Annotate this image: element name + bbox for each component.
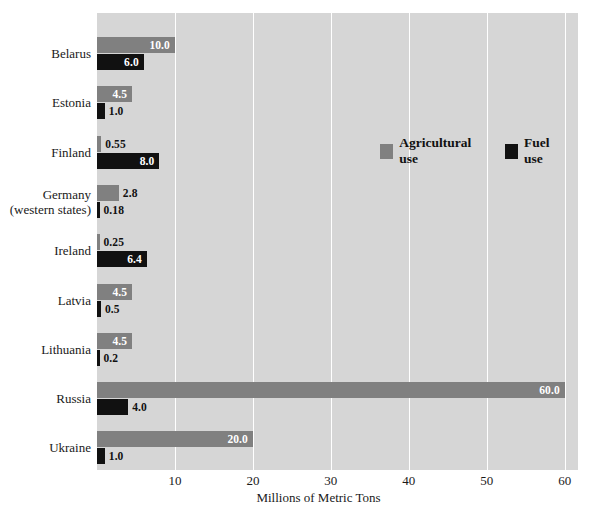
cut-off-title-remnant xyxy=(0,0,597,4)
legend: Agricultural useFuel use xyxy=(380,135,578,167)
bar-agricultural: 4.5 xyxy=(97,86,132,102)
bar-agricultural: 0.55 xyxy=(97,136,101,152)
bar-fuel: 6.4 xyxy=(97,251,147,267)
bar-agricultural: 2.8 xyxy=(97,185,119,201)
bar-group: 2.80.18 xyxy=(97,185,578,229)
bar-value-label: 4.0 xyxy=(132,401,147,413)
bar-fuel: 0.5 xyxy=(97,301,101,317)
y-axis-label-russia: Russia xyxy=(0,391,91,406)
y-axis-label-line: Lithuania xyxy=(0,342,91,357)
legend-swatch xyxy=(505,144,518,159)
bar-value-label: 0.25 xyxy=(104,236,125,248)
bar-value-label: 20.0 xyxy=(227,433,248,445)
x-tick-label: 20 xyxy=(246,473,259,489)
bar-value-label: 4.5 xyxy=(112,88,127,100)
y-axis-label-line: Ukraine xyxy=(0,440,91,455)
bar-value-label: 6.0 xyxy=(124,56,139,68)
bar-group: 20.01.0 xyxy=(97,431,578,475)
y-axis-label-line: Ireland xyxy=(0,243,91,258)
y-axis-label-estonia: Estonia xyxy=(0,95,91,110)
x-tick-label: 60 xyxy=(558,473,571,489)
legend-item: Agricultural use xyxy=(380,135,483,167)
bar-value-label: 10.0 xyxy=(149,39,170,51)
bar-fuel: 0.18 xyxy=(97,202,100,218)
bar-group: 10.06.0 xyxy=(97,37,578,81)
bar-value-label: 4.5 xyxy=(112,335,127,347)
x-tick-label: 10 xyxy=(168,473,181,489)
x-tick-label: 50 xyxy=(480,473,493,489)
peat-production-bar-chart: BelarusEstoniaFinlandGermany(western sta… xyxy=(0,0,597,512)
y-axis-label-belarus: Belarus xyxy=(0,46,91,61)
y-axis-label-line: Estonia xyxy=(0,95,91,110)
bar-agricultural: 20.0 xyxy=(97,431,253,447)
bar-group: 4.51.0 xyxy=(97,86,578,130)
bar-group: 60.04.0 xyxy=(97,382,578,426)
bar-value-label: 6.4 xyxy=(127,253,142,265)
bar-group: 4.50.2 xyxy=(97,333,578,377)
y-axis-label-line: Finland xyxy=(0,145,91,160)
bar-value-label: 4.5 xyxy=(112,286,127,298)
bar-value-label: 2.8 xyxy=(123,187,138,199)
y-axis-label-ukraine: Ukraine xyxy=(0,440,91,455)
bar-value-label: 8.0 xyxy=(140,155,155,167)
bar-agricultural: 4.5 xyxy=(97,284,132,300)
bar-value-label: 0.5 xyxy=(105,303,120,315)
plot-area: 10.06.04.51.00.558.02.80.180.256.44.50.5… xyxy=(97,13,578,470)
y-axis-category-labels: BelarusEstoniaFinlandGermany(western sta… xyxy=(0,13,91,470)
bar-agricultural: 4.5 xyxy=(97,333,132,349)
x-axis-title: Millions of Metric Tons xyxy=(0,490,597,506)
legend-swatch xyxy=(380,144,393,159)
y-axis-label-line: Germany xyxy=(0,187,91,202)
bar-fuel: 4.0 xyxy=(97,399,128,415)
bar-agricultural: 10.0 xyxy=(97,37,175,53)
y-axis-label-line: Latvia xyxy=(0,293,91,308)
y-axis-label-germany-western-states: Germany(western states) xyxy=(0,187,91,217)
bar-value-label: 1.0 xyxy=(109,450,124,462)
y-axis-label-line: (western states) xyxy=(0,202,91,217)
bar-value-label: 0.2 xyxy=(104,352,119,364)
bar-fuel: 1.0 xyxy=(97,448,105,464)
bar-value-label: 60.0 xyxy=(539,384,560,396)
bar-value-label: 1.0 xyxy=(109,105,124,117)
bar-fuel: 0.2 xyxy=(97,350,100,366)
bar-group: 4.50.5 xyxy=(97,284,578,328)
bar-fuel: 1.0 xyxy=(97,103,105,119)
y-axis-label-line: Belarus xyxy=(0,46,91,61)
bar-fuel: 6.0 xyxy=(97,54,144,70)
legend-item: Fuel use xyxy=(505,135,566,167)
y-axis-label-finland: Finland xyxy=(0,145,91,160)
y-axis-label-ireland: Ireland xyxy=(0,243,91,258)
y-axis-label-latvia: Latvia xyxy=(0,293,91,308)
bar-fuel: 8.0 xyxy=(97,153,159,169)
bar-value-label: 0.55 xyxy=(105,138,126,150)
legend-label: Fuel use xyxy=(524,135,566,167)
y-axis-label-line: Russia xyxy=(0,391,91,406)
x-tick-label: 40 xyxy=(402,473,415,489)
y-axis-label-lithuania: Lithuania xyxy=(0,342,91,357)
bar-value-label: 0.18 xyxy=(104,204,125,216)
x-tick-label: 30 xyxy=(324,473,337,489)
bar-group: 0.256.4 xyxy=(97,234,578,278)
legend-label: Agricultural use xyxy=(399,135,482,167)
bar-agricultural: 60.0 xyxy=(97,382,565,398)
bar-agricultural: 0.25 xyxy=(97,234,100,250)
